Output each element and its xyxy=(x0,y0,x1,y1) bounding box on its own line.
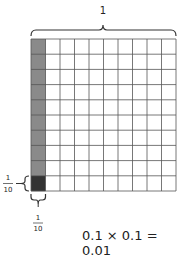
left-brace xyxy=(21,176,29,191)
highlighted-cell xyxy=(31,176,46,191)
bottom-brace xyxy=(31,194,46,204)
bottom-fraction-denominator: 10 xyxy=(34,225,43,233)
shaded-column xyxy=(31,39,46,176)
multiplication-grid-diagram: 1 1 10 1 10 xyxy=(0,0,188,260)
top-brace xyxy=(31,25,176,36)
left-fraction-numerator: 1 xyxy=(6,174,10,182)
equation: 0.1 × 0.1 = 0.01 xyxy=(82,228,188,258)
left-fraction-denominator: 10 xyxy=(4,186,13,194)
grid-lines xyxy=(31,39,176,191)
bottom-fraction-numerator: 1 xyxy=(36,214,40,222)
top-label: 1 xyxy=(100,5,106,16)
